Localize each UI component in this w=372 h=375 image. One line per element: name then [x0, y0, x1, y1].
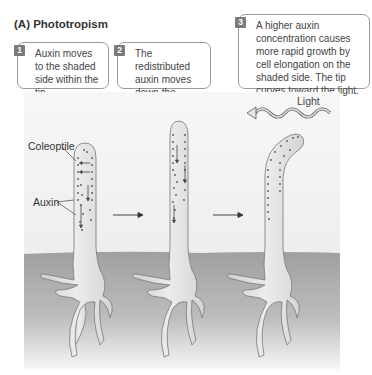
- auxin-label: Auxin: [33, 196, 59, 208]
- light-label: Light: [297, 95, 320, 107]
- illustration-panel: [24, 92, 340, 370]
- step-1-badge: 1: [14, 45, 25, 56]
- step-2-badge: 2: [114, 45, 125, 56]
- figure-title: (A) Phototropism: [14, 18, 108, 30]
- step-3-text: A higher auxin concentration causes more…: [246, 19, 363, 97]
- step-3-badge: 3: [235, 17, 246, 28]
- step-3-callout: 3 A higher auxin concentration causes mo…: [238, 14, 370, 89]
- step-2-callout: 2 The redistributed auxin moves down the…: [117, 42, 211, 89]
- coleoptile-label: Coleoptile: [28, 140, 75, 152]
- step-1-callout: 1 Auxin moves to the shaded side within …: [17, 42, 109, 89]
